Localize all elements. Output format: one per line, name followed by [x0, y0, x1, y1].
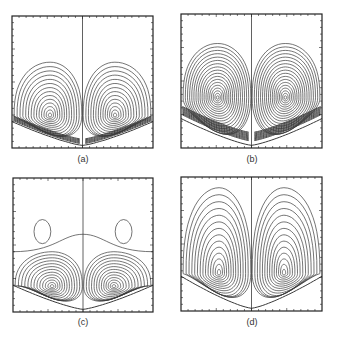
panel-d [181, 177, 322, 311]
contour-plot-b [181, 14, 322, 148]
panel-label-c: (c) [63, 317, 103, 327]
panel-label-d: (d) [232, 317, 272, 327]
panel-label-b: (b) [232, 154, 272, 164]
panel-label-a: (a) [63, 154, 103, 164]
panel-b [181, 14, 322, 148]
panel-a [12, 16, 153, 148]
contour-plot-c [13, 178, 153, 312]
panel-c [13, 178, 153, 312]
contour-plot-a [12, 16, 153, 148]
contour-plot-d [181, 177, 322, 311]
